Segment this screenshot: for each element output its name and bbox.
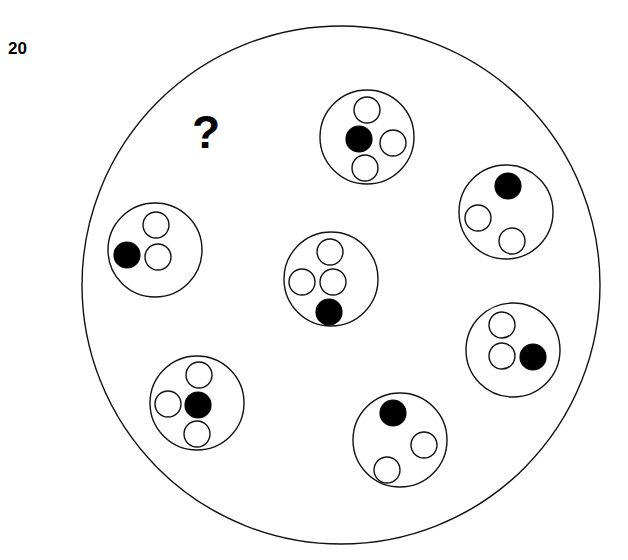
- top-group-dot-2-filled: [346, 126, 372, 152]
- center-group-dot-1-open: [317, 239, 343, 265]
- top-group: [320, 90, 414, 184]
- bottom-right-group-dot-1-filled: [380, 400, 406, 426]
- center-group-dot-4-filled: [316, 299, 342, 325]
- figure-canvas: 20 ?: [0, 0, 628, 560]
- right-group-dot-1-open: [489, 312, 515, 338]
- left-group-dot-3-open: [145, 244, 171, 270]
- center-group-dot-2-open: [289, 269, 315, 295]
- upper-right-group: [459, 165, 553, 259]
- upper-right-group-dot-3-open: [499, 228, 525, 254]
- center-group-dot-3-open: [320, 269, 346, 295]
- question-mark-symbol: ?: [192, 106, 220, 158]
- top-group-dot-3-open: [380, 130, 406, 156]
- left-group-dot-1-open: [143, 212, 169, 238]
- bottom-left-group-dot-2-open: [155, 391, 181, 417]
- bottom-right-group-dot-2-open: [411, 432, 437, 458]
- item-number-label: 20: [8, 39, 27, 58]
- diagram-svg: 20 ?: [0, 0, 628, 560]
- top-group-dot-4-open: [352, 155, 378, 181]
- center-group: [284, 232, 378, 326]
- right-group-dot-2-open: [489, 343, 515, 369]
- top-group-dot-1-open: [354, 97, 380, 123]
- upper-right-group-dot-1-filled: [495, 173, 521, 199]
- bottom-right-group-dot-3-open: [374, 457, 400, 483]
- left-group-dot-2-filled: [114, 242, 140, 268]
- right-group: [466, 303, 560, 397]
- upper-right-group-dot-2-open: [465, 205, 491, 231]
- bottom-left-group-dot-3-filled: [185, 392, 211, 418]
- bottom-left-group: [150, 356, 244, 450]
- bottom-left-group-dot-1-open: [186, 362, 212, 388]
- bottom-left-group-dot-4-open: [184, 421, 210, 447]
- bottom-right-group: [353, 393, 447, 487]
- left-group: [108, 203, 202, 297]
- right-group-dot-3-filled: [520, 344, 546, 370]
